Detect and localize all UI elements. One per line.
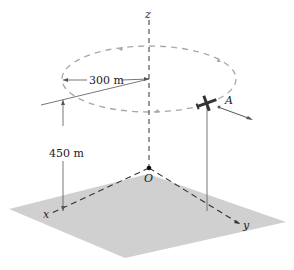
height-arrow-top-icon [61, 100, 65, 105]
x-axis-label: x [43, 208, 50, 221]
origin-point [147, 166, 152, 171]
height-label: 450 m [49, 147, 84, 160]
velocity-vector [218, 107, 251, 119]
radius-arrow-left-icon [63, 78, 68, 82]
point-a-label: A [224, 94, 233, 107]
y-axis-label: y [242, 219, 250, 232]
ground-plane [9, 174, 286, 258]
diagram-canvas: z x y O A 300 m 450 m [0, 0, 294, 270]
origin-label: O [144, 172, 153, 185]
aircraft-icon [194, 92, 219, 114]
radius-label: 300 m [89, 74, 124, 87]
z-axis-label: z [144, 8, 151, 21]
point-a-marker [218, 106, 221, 109]
velocity-arrow-icon [246, 116, 253, 120]
